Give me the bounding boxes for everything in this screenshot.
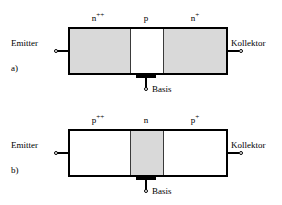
region-label-a-middle: p bbox=[144, 13, 149, 24]
region-label-b-right: p+ bbox=[191, 115, 199, 126]
emitter-label-a: Emitter bbox=[11, 38, 38, 49]
region-label-b-left: p++ bbox=[92, 115, 104, 126]
region-label-a-right: n+ bbox=[191, 13, 199, 24]
collector-terminal-node-a bbox=[239, 49, 243, 53]
emitter-terminal-node-a bbox=[54, 49, 58, 53]
base-label-b: Basis bbox=[152, 186, 172, 197]
emitter-label-b: Emitter bbox=[11, 140, 38, 151]
region-label-b-middle-text: n bbox=[144, 115, 149, 125]
region-label-a-middle-text: p bbox=[144, 13, 149, 23]
region-label-b-right-superscript: + bbox=[195, 113, 199, 121]
region-a-collector bbox=[163, 29, 226, 73]
panel-label-a: a) bbox=[11, 63, 18, 73]
diagram-panel-a: a) n++ p n+ Emitter Kollektor Basis bbox=[0, 0, 282, 102]
junction-line-b-1 bbox=[130, 131, 131, 175]
region-b-collector bbox=[163, 131, 226, 175]
base-terminal-node-b bbox=[144, 189, 148, 193]
region-label-a-left-superscript: ++ bbox=[96, 11, 104, 19]
base-terminal-node-a bbox=[144, 87, 148, 91]
emitter-terminal-node-b bbox=[54, 151, 58, 155]
collector-lead-a bbox=[227, 50, 239, 52]
emitter-lead-a bbox=[57, 50, 69, 52]
diagram-panel-b: b) p++ n p+ Emitter Kollektor Basis bbox=[0, 102, 282, 204]
collector-label-b: Kollektor bbox=[231, 140, 266, 151]
region-label-a-left: n++ bbox=[92, 13, 104, 24]
region-label-b-middle: n bbox=[144, 115, 149, 126]
region-a-emitter bbox=[70, 29, 130, 73]
junction-line-a-2 bbox=[163, 29, 164, 73]
transistor-cross-section-figure: a) n++ p n+ Emitter Kollektor Basis b) p… bbox=[0, 0, 282, 205]
transistor-body-a bbox=[68, 27, 228, 75]
junction-line-a-1 bbox=[130, 29, 131, 73]
collector-lead-b bbox=[227, 152, 239, 154]
region-label-b-left-superscript: ++ bbox=[96, 113, 104, 121]
transistor-body-b bbox=[68, 129, 228, 177]
region-label-a-right-superscript: + bbox=[195, 11, 199, 19]
region-a-base bbox=[130, 29, 163, 73]
base-label-a: Basis bbox=[152, 84, 172, 95]
panel-label-b: b) bbox=[11, 165, 19, 175]
region-b-emitter bbox=[70, 131, 130, 175]
collector-label-a: Kollektor bbox=[231, 38, 266, 49]
region-b-base bbox=[130, 131, 163, 175]
collector-terminal-node-b bbox=[239, 151, 243, 155]
emitter-lead-b bbox=[57, 152, 69, 154]
junction-line-b-2 bbox=[163, 131, 164, 175]
